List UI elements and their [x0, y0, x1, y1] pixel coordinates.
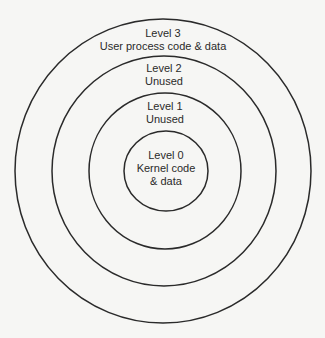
level-3-description: User process code & data — [100, 40, 227, 52]
level-0-label: Level 0 — [148, 149, 183, 161]
protection-rings-diagram: Level 3 User process code & data Level 2… — [0, 0, 325, 338]
level-0-description-line1: Kernel code — [137, 162, 196, 174]
level-0-description-line2: & data — [150, 175, 183, 187]
level-3-label: Level 3 — [145, 27, 180, 39]
level-1-description: Unused — [146, 113, 184, 125]
level-2-label: Level 2 — [146, 62, 181, 74]
level-2-description: Unused — [145, 75, 183, 87]
level-1-label: Level 1 — [147, 100, 182, 112]
